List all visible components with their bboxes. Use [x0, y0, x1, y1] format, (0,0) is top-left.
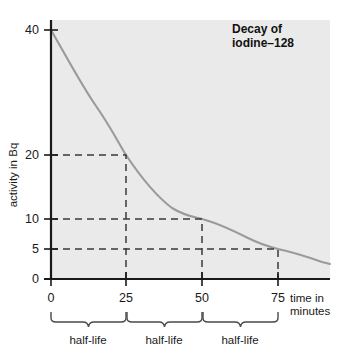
x-tick-label-50: 50	[195, 291, 209, 305]
half-life-label-3: half-life	[221, 334, 258, 346]
decay-chart-svg: 40 20 10 5 0 activity in Bq 0 25 50 75 t…	[0, 0, 344, 356]
y-tick-label-20: 20	[25, 148, 39, 162]
y-axis-title: activity in Bq	[7, 143, 19, 208]
y-tick-label-40: 40	[25, 23, 39, 37]
half-life-bracket-2	[127, 312, 202, 327]
y-tick-label-5: 5	[32, 242, 39, 256]
half-life-label-1: half-life	[69, 334, 106, 346]
chart-title-line1: Decay of	[232, 22, 283, 36]
x-axis-title-line2: minutes	[290, 305, 331, 317]
plot-background	[51, 20, 330, 279]
x-axis-title-line1: time in	[290, 292, 324, 304]
x-tick-label-75: 75	[271, 291, 285, 305]
decay-chart-figure: 40 20 10 5 0 activity in Bq 0 25 50 75 t…	[0, 0, 344, 356]
chart-title-line2: iodine–128	[232, 36, 294, 50]
x-tick-label-0: 0	[48, 291, 55, 305]
y-tick-label-0: 0	[32, 272, 39, 286]
y-tick-label-10: 10	[25, 212, 39, 226]
half-life-label-2: half-life	[145, 334, 182, 346]
x-tick-label-25: 25	[119, 291, 133, 305]
half-life-bracket-3	[203, 312, 278, 327]
half-life-bracket-1	[51, 312, 126, 327]
